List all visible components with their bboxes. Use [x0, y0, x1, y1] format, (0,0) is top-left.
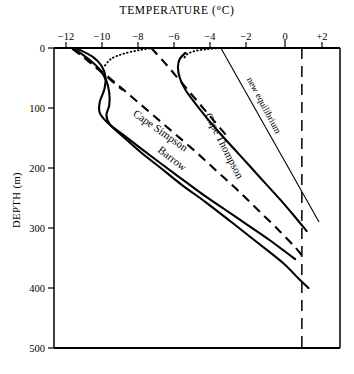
temperature-depth-chart: TEMPERATURE (°C) −12 −10 −8 −6 −4 −2 0 +…: [0, 0, 354, 374]
y-tick-label: 100: [29, 103, 45, 114]
x-tick-label: −6: [168, 31, 179, 42]
curve-annotations: Cape Simpson Cape Thompson Barrow new eq…: [131, 75, 283, 180]
figure-container: TEMPERATURE (°C) −12 −10 −8 −6 −4 −2 0 +…: [0, 0, 354, 374]
y-tick-label: 200: [29, 163, 45, 174]
y-axis-label: DEPTH (m): [11, 172, 23, 228]
x-tick-labels: −12 −10 −8 −6 −4 −2 0 +2: [58, 31, 328, 42]
y-tick-label: 400: [29, 283, 45, 294]
x-tick-label: −12: [58, 31, 74, 42]
annotation-cape-thompson: Cape Thompson: [203, 111, 247, 181]
y-tick-label: 300: [29, 223, 45, 234]
y-tick-labels: 0 100 200 300 400 500: [29, 43, 45, 354]
curve-cape-thompson-dotted: [184, 48, 220, 59]
curve-cape-simpson-dotted: [105, 48, 154, 66]
x-tick-label: −10: [94, 31, 110, 42]
data-curves: [72, 48, 319, 348]
plot-frame: [54, 48, 340, 348]
curve-barrow: [73, 48, 308, 288]
y-ticks: [48, 48, 54, 348]
x-tick-label: +2: [316, 31, 327, 42]
x-tick-label: −2: [240, 31, 251, 42]
x-tick-label: −8: [132, 31, 143, 42]
y-tick-label: 500: [29, 343, 45, 354]
annotation-new-equilibrium: new equilibrium: [245, 75, 283, 135]
chart-title: TEMPERATURE (°C): [120, 4, 235, 17]
y-tick-label: 0: [40, 43, 45, 54]
curve-cape-thompson: [178, 53, 307, 231]
curve-new-equilibrium: [221, 48, 319, 222]
x-tick-label: −4: [204, 31, 216, 42]
